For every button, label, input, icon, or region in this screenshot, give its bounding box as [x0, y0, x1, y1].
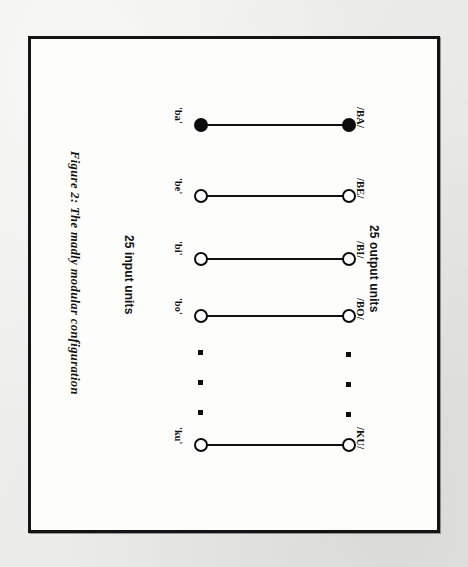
figure-caption: Figure 2: The madly modular configuratio…: [69, 151, 82, 395]
output-ellipsis-dot-3: [346, 412, 351, 417]
output-ellipsis-dot-1: [346, 352, 351, 357]
input-label-ba: 'ba': [173, 107, 183, 124]
output-label-be: /BE/: [355, 178, 366, 199]
input-group-label: 25 input units: [123, 235, 135, 314]
connector-line-row-5: [201, 444, 349, 446]
input-node-bo[interactable]: [194, 309, 208, 323]
input-node-bi[interactable]: [194, 252, 208, 266]
input-ellipsis-dot-1: [198, 350, 203, 355]
input-node-ku[interactable]: [194, 438, 208, 452]
output-label-ku: /KU/: [355, 427, 366, 449]
output-label-bo: /BO/: [355, 298, 366, 320]
connector-line-row-3: [201, 258, 349, 260]
output-label-ba: /BA/: [355, 107, 366, 128]
input-ellipsis-dot-2: [198, 380, 203, 385]
input-label-bo: 'bo': [173, 298, 183, 315]
output-ellipsis-dot-2: [346, 382, 351, 387]
connector-line-row-4: [201, 315, 349, 317]
output-label-bi: /BI/: [355, 241, 366, 259]
input-label-bi: 'bi': [173, 241, 183, 256]
connector-line-row-2: [201, 195, 349, 197]
input-node-be[interactable]: [194, 189, 208, 203]
input-ellipsis-dot-3: [198, 410, 203, 415]
input-label-be: 'be': [173, 178, 183, 194]
figure-border-frame: 'ba' /BA/ 'be' /BE/ 'bi' /BI/ 'bo' /BO/: [28, 36, 440, 533]
scanned-page: 'ba' /BA/ 'be' /BE/ 'bi' /BI/ 'bo' /BO/: [0, 0, 468, 567]
connector-line-row-1: [201, 124, 349, 126]
diagram-canvas: 'ba' /BA/ 'be' /BE/ 'bi' /BI/ 'bo' /BO/: [31, 39, 437, 530]
input-node-ba[interactable]: [194, 118, 208, 132]
input-label-ku: 'ku': [173, 427, 183, 444]
output-group-label: 25 output units: [368, 225, 380, 313]
